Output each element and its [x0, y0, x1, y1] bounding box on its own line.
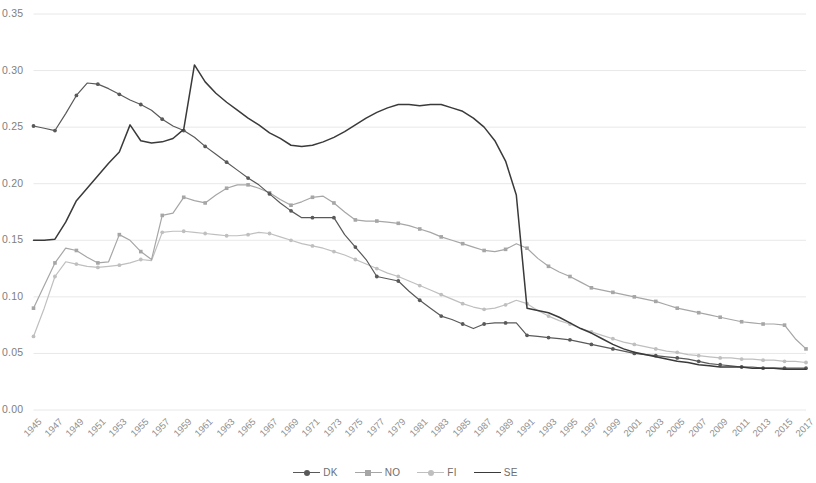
- legend-item-se[interactable]: SE: [474, 467, 518, 478]
- y-axis-tick-0-05: 0.05: [2, 346, 23, 358]
- y-axis-tick-0-25: 0.25: [2, 120, 23, 132]
- legend-marker-se-icon: [474, 468, 501, 477]
- legend-item-no[interactable]: NO: [355, 467, 401, 478]
- gridlines: [34, 14, 807, 410]
- legend-label-dk: DK: [323, 467, 338, 478]
- y-axis-tick-0-15: 0.15: [2, 233, 23, 245]
- y-axis-tick-0-00: 0.00: [2, 403, 23, 415]
- legend-marker-dk-icon: [293, 468, 320, 477]
- legend-label-no: NO: [385, 467, 401, 478]
- legend-label-fi: FI: [447, 467, 457, 478]
- legend-item-fi[interactable]: FI: [417, 467, 457, 478]
- series-dk: [32, 82, 808, 370]
- legend-marker-no-icon: [355, 468, 382, 477]
- y-axis-tick-0-35: 0.35: [2, 7, 23, 19]
- y-axis-tick-0-30: 0.30: [2, 64, 23, 76]
- series-se: [34, 65, 807, 369]
- chart-legend: DKNOFISE: [0, 462, 811, 483]
- legend-marker-fi-icon: [417, 468, 444, 477]
- y-axis-tick-0-10: 0.10: [2, 290, 23, 302]
- legend-label-se: SE: [504, 467, 518, 478]
- series-no: [32, 183, 808, 351]
- y-axis-tick-0-20: 0.20: [2, 177, 23, 189]
- legend-item-dk[interactable]: DK: [293, 467, 338, 478]
